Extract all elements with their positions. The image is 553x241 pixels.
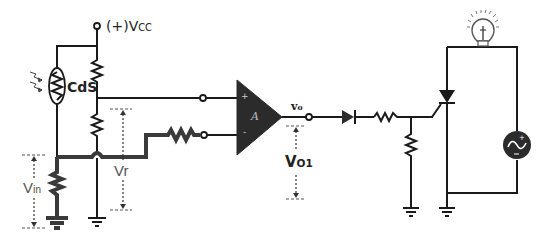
vin-label: Vin [23,180,41,195]
r-cds-bottom [52,157,62,217]
vcc-label: (+)VCC [106,19,152,33]
r-gate-shunt [406,117,416,208]
output-terminal [306,114,312,120]
ground-icon [46,218,68,228]
vcc-terminal [94,23,100,55]
plus-input-terminal [200,95,206,101]
ground-icon [439,208,455,216]
r-input [165,130,200,140]
scr-thyristor-icon [439,47,455,208]
wire-vin-node [57,135,165,157]
opamp-minus-label: - [243,128,246,137]
opamp-gain-label: A [251,111,259,122]
vo1-label: VO1 [285,155,313,170]
cds-label: CdS [67,80,97,94]
light-arrows-icon [30,72,42,92]
lightbulb-icon [467,10,499,46]
ac-source-icon: + [503,131,531,159]
ground-icon [88,218,106,226]
svg-text:+: + [519,134,525,142]
opamp-plus-label: + [241,92,249,101]
wire-load-bottom [447,160,517,193]
cds-photoresistor [30,68,65,157]
vr-label: Vr [114,163,128,178]
circuit-diagram: + (+)VCC CdS Vin Vr + - A vo VO1 [0,0,553,241]
r-gate [374,104,441,121]
minus-input-terminal [201,132,207,138]
wire-load-top [447,47,517,131]
vr-dimension [110,109,132,210]
wire-top-rail [57,46,97,68]
ground-icon [403,208,419,216]
diode-icon [342,110,355,124]
vo-label: vo [291,101,303,112]
